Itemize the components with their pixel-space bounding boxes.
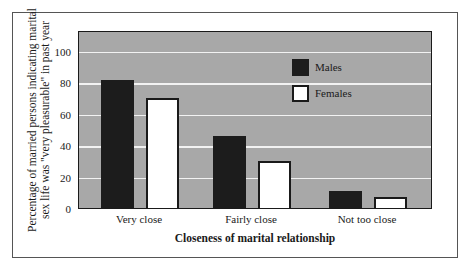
bar-females-fairly-close bbox=[258, 161, 291, 208]
y-tick-label: 100 bbox=[41, 46, 71, 58]
bar-males-fairly-close bbox=[213, 136, 246, 208]
gridline-100 bbox=[79, 52, 431, 54]
legend-label-females: Females bbox=[315, 87, 352, 99]
x-tick-label: Very close bbox=[89, 213, 189, 225]
y-tick-label: 40 bbox=[41, 140, 71, 152]
legend-swatch-females bbox=[292, 85, 309, 102]
legend-label-males: Males bbox=[315, 61, 342, 73]
y-tick-label: 60 bbox=[41, 109, 71, 121]
x-axis-label: Closeness of marital relationship bbox=[78, 232, 432, 244]
y-tick-label: 0 bbox=[41, 203, 71, 215]
y-axis-label-line-1: Percentage of married persons indicating… bbox=[26, 8, 39, 232]
bar-males-very-close bbox=[101, 80, 134, 208]
bar-females-very-close bbox=[146, 98, 179, 208]
plot-area: Males Females bbox=[78, 31, 432, 209]
bar-males-not-too-close bbox=[329, 191, 362, 208]
legend-swatch-males bbox=[292, 59, 309, 76]
bar-females-not-too-close bbox=[374, 197, 407, 208]
y-tick-label: 20 bbox=[41, 172, 71, 184]
x-tick-label: Fairly close bbox=[201, 213, 301, 225]
y-tick-label: 80 bbox=[41, 77, 71, 89]
x-tick-label: Not too close bbox=[317, 213, 417, 225]
